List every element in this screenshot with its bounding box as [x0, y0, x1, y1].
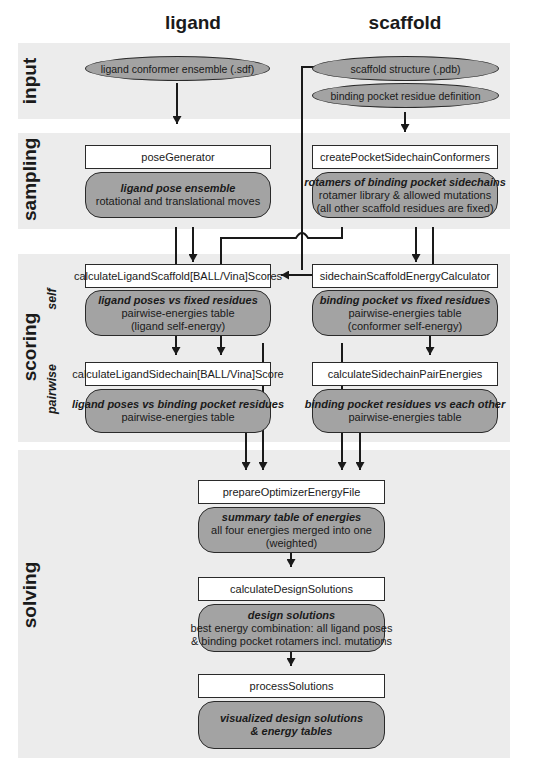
process-label: prepareOptimizerEnergyFile: [223, 486, 361, 498]
process-label: calculateSidechainPairEnergies: [328, 368, 483, 380]
result-title-line2: & energy tables: [251, 725, 333, 738]
result-rotamers: rotamers of binding pocket sidechains ro…: [312, 172, 498, 218]
result-line: (ligand self-energy): [131, 320, 225, 333]
result-line: (all other scaffold residues are fixed): [316, 202, 493, 215]
result-title: ligand pose ensemble: [121, 182, 236, 195]
input-scaffold-structure: scaffold structure (.pdb): [312, 56, 499, 81]
result-line: all four energies merged into one: [211, 524, 372, 537]
process-calculate-sidechain-pair-energies: calculateSidechainPairEnergies: [312, 362, 498, 386]
result-title: summary table of energies: [222, 511, 361, 524]
result-line: pairwise-energies table: [121, 307, 234, 320]
process-label: sidechainScaffoldEnergyCalculator: [320, 270, 490, 282]
result-pocket-vs-each-other: binding pocket residues vs each other pa…: [312, 389, 498, 433]
result-visualized-design-solutions: visualized design solutions & energy tab…: [198, 701, 385, 749]
process-calculate-ligand-scaffold-scores: calculateLigandScaffold[BALL/Vina]Scores: [85, 264, 271, 288]
process-calculate-design-solutions: calculateDesignSolutions: [198, 577, 385, 601]
result-ligand-vs-pocket: ligand poses vs binding pocket residues …: [85, 389, 271, 433]
result-line: rotational and translational moves: [96, 195, 260, 208]
process-prepare-optimizer-energy-file: prepareOptimizerEnergyFile: [198, 480, 385, 504]
result-line: & binding pocket rotamers incl. mutation…: [191, 635, 392, 648]
result-line: (conformer self-energy): [348, 320, 462, 333]
process-process-solutions: processSolutions: [198, 674, 385, 698]
process-calculate-ligand-sidechain-score: calculateLigandSidechain[BALL/Vina]Score: [85, 362, 271, 386]
result-title: ligand poses vs binding pocket residues: [72, 398, 284, 411]
result-line: rotamer library & allowed mutations: [319, 189, 491, 202]
result-line: best energy combination: all ligand pose…: [191, 622, 393, 635]
result-ligand-pose-ensemble: ligand pose ensemble rotational and tran…: [85, 172, 271, 218]
process-label: processSolutions: [250, 680, 334, 692]
result-line: pairwise-energies table: [348, 307, 461, 320]
process-label: createPocketSidechainConformers: [320, 151, 490, 163]
result-title: visualized design solutions: [220, 712, 363, 725]
result-summary-table-of-energies: summary table of energies all four energ…: [198, 507, 385, 553]
process-label: poseGenerator: [141, 151, 214, 163]
process-sidechain-scaffold-energy-calculator: sidechainScaffoldEnergyCalculator: [312, 264, 498, 288]
result-title: design solutions: [248, 609, 335, 622]
result-conformer-self-energy: binding pocket vs fixed residues pairwis…: [312, 290, 498, 336]
connector-lines: [0, 0, 544, 772]
result-title: binding pocket residues vs each other: [305, 398, 506, 411]
result-line: (weighted): [266, 537, 317, 550]
result-design-solutions: design solutions best energy combination…: [198, 604, 385, 652]
result-title: rotamers of binding pocket sidechains: [304, 176, 506, 189]
input-ligand-label: ligand conformer ensemble (.sdf): [101, 63, 255, 75]
input-pocket-label: binding pocket residue definition: [330, 90, 480, 102]
result-line: pairwise-energies table: [121, 411, 234, 424]
process-label: calculateLigandScaffold[BALL/Vina]Scores: [74, 270, 282, 282]
result-title: ligand poses vs fixed residues: [98, 294, 258, 307]
process-pose-generator: poseGenerator: [85, 145, 271, 169]
result-ligand-self-energy: ligand poses vs fixed residues pairwise-…: [85, 290, 271, 336]
result-title: binding pocket vs fixed residues: [320, 294, 491, 307]
process-create-pocket-sidechain-conformers: createPocketSidechainConformers: [312, 145, 498, 169]
input-binding-pocket-definition: binding pocket residue definition: [312, 83, 499, 108]
input-ligand-conformer-ensemble: ligand conformer ensemble (.sdf): [85, 56, 270, 81]
result-line: pairwise-energies table: [348, 411, 461, 424]
process-label: calculateLigandSidechain[BALL/Vina]Score: [72, 368, 283, 380]
input-scaffold-label: scaffold structure (.pdb): [350, 63, 460, 75]
process-label: calculateDesignSolutions: [230, 583, 353, 595]
